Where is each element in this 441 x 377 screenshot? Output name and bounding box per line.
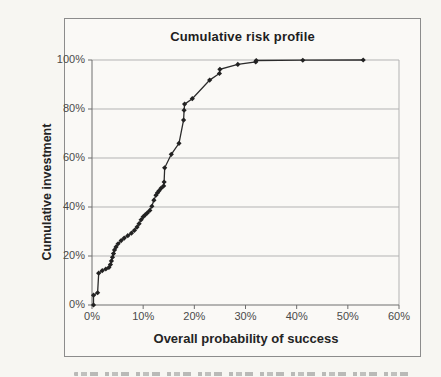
x-tick-label: 20% [172,310,216,323]
y-tick-label: 100% [45,53,85,66]
data-point-marker [235,62,240,67]
chart-frame: Cumulative risk profile Overall probabil… [64,18,421,357]
data-point-marker [109,258,114,263]
y-tick-label: 40% [45,200,85,213]
x-axis-title: Overall probability of success [92,331,400,346]
x-tick-label: 30% [224,310,268,323]
series-line [94,60,364,305]
data-point-marker [300,58,305,63]
data-point-marker [151,198,156,203]
chart-title: Cumulative risk profile [65,29,420,44]
data-point-marker [162,179,167,184]
cropped-caption-remnant [74,372,410,376]
y-tick-label: 80% [45,102,85,115]
data-point-marker [110,255,115,260]
y-axis-title: Cumulative investment [40,124,54,261]
data-point-marker [361,57,366,62]
data-point-marker [182,108,187,113]
data-point-marker [162,165,167,170]
scanned-page: Cumulative risk profile Overall probabil… [0,0,441,377]
plot-svg [92,60,400,306]
y-tick-label: 20% [45,249,85,262]
y-tick-label: 60% [45,151,85,164]
x-tick-label: 50% [326,310,370,323]
x-tick-label: 40% [275,310,319,323]
data-point-marker [181,117,186,122]
x-tick-label: 0% [70,310,114,323]
x-tick-label: 10% [121,310,165,323]
data-point-marker [217,67,222,72]
data-point-marker [111,251,116,256]
x-tick-label: 60% [377,310,421,323]
